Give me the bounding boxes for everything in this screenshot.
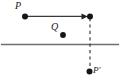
diagram-svg: [0, 0, 123, 84]
point-p-endpoint-dot: [87, 13, 93, 19]
point-p-prime-dot: [87, 69, 93, 75]
point-q-dot: [60, 32, 66, 38]
point-p-prime-label: P': [93, 65, 100, 75]
figure-canvas: P Q P': [0, 0, 123, 84]
point-q-label: Q: [51, 22, 58, 32]
point-p-dot: [22, 13, 28, 19]
point-p-label: P: [15, 1, 21, 11]
displacement-arrow-head: [82, 13, 88, 19]
